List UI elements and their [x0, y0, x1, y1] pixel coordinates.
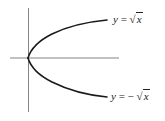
- label-minus: −: [128, 90, 137, 102]
- label-equals: =: [118, 13, 130, 25]
- sqrt-x: √x: [130, 13, 143, 25]
- label-x: x: [143, 89, 150, 102]
- lower-curve-label: y = − √x: [111, 90, 150, 102]
- label-x: x: [136, 12, 143, 25]
- curve-neg-sqrt-x: [28, 58, 107, 97]
- radical-icon: √: [130, 13, 136, 25]
- label-equals: =: [116, 90, 128, 102]
- radical-icon: √: [137, 90, 143, 102]
- upper-curve-label: y = √x: [113, 13, 143, 25]
- sqrt-x: √x: [137, 90, 150, 102]
- curve-sqrt-x: [28, 20, 107, 58]
